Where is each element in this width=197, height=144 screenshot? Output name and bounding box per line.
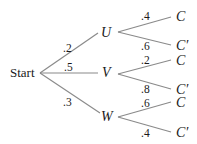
prob-w-cprime: .4 [141,127,150,139]
root-start-label: Start [10,65,35,80]
node-w: W [101,109,114,124]
node-u: U [101,25,112,40]
prob-v-c: .2 [141,54,150,66]
prob-w-c: .6 [141,97,150,109]
leaf-u-cprime: C′ [176,38,189,53]
leaf-u-c: C [176,9,186,24]
prob-u: .2 [63,42,72,54]
prob-w: .3 [63,96,72,108]
leaf-w-cprime: C′ [176,125,189,140]
leaf-v-c: C [176,53,186,68]
probability-tree: Start .2 .5 .3 U V W .4 .6 C C′ .2 .8 C … [0,0,197,144]
prob-u-cprime: .6 [141,40,150,52]
prob-v-cprime: .8 [141,83,150,95]
prob-u-c: .4 [141,10,150,22]
prob-v: .5 [64,61,73,73]
leaf-w-c: C [176,95,186,110]
node-v: V [102,65,112,80]
